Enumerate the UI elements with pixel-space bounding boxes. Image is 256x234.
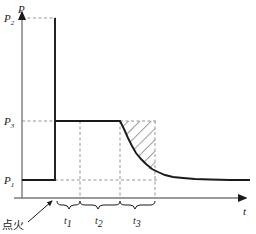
hatched-region — [120, 121, 158, 180]
brace-t3 — [120, 201, 155, 209]
pressure-curve — [22, 18, 250, 180]
segment-label-t3: t3 — [133, 215, 141, 229]
ignition-arrow — [28, 201, 52, 222]
level-label-P1: P1 — [3, 174, 14, 189]
dashed-guides — [22, 18, 158, 197]
segment-label-t1: t1 — [64, 215, 72, 229]
y-axis-label: P — [17, 3, 25, 15]
axes — [14, 12, 246, 198]
level-label-P3: P3 — [3, 115, 15, 130]
segment-label-t2: t2 — [95, 215, 103, 229]
x-axis-label: t — [243, 205, 247, 217]
ignition-label: 点火 — [2, 219, 24, 232]
diagram-canvas: P t P2 P3 P1 t1 t2 t3 点火 — [0, 0, 256, 234]
level-label-P2: P2 — [3, 12, 15, 27]
segment-braces — [57, 201, 155, 209]
pressure-time-diagram: P t P2 P3 P1 t1 t2 t3 点火 — [0, 0, 256, 234]
brace-t1 — [57, 201, 80, 209]
brace-t2 — [80, 201, 120, 209]
